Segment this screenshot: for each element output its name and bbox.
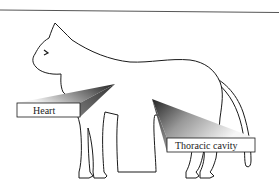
cat-anatomy-diagram: Heart Thoracic cavity [0,0,279,188]
thoracic-label: Thoracic cavity [175,140,237,151]
top-rule [0,10,279,13]
heart-label: Heart [33,105,55,116]
